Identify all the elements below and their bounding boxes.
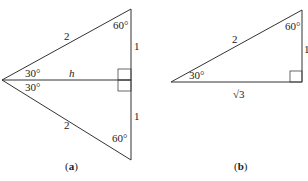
diagram-canvas: 2 2 1 1 h 30° 30° 60° 60° (a) 2 1 √3 30°… [0,0,308,181]
angle-left: 30° [189,69,204,81]
angle-bottom-right: 60° [112,132,127,144]
hyp-top-label: 2 [64,30,70,42]
height-label: h [69,67,75,79]
hypotenuse-top [2,9,131,80]
angle-top-left: 30° [25,67,40,79]
vertical-side-label: 1 [304,43,308,55]
right-angle-marker-top [118,69,131,80]
hyp-bottom-label: 2 [64,119,70,131]
angle-top-right: 60° [113,19,128,31]
figure-b: 2 1 √3 30° 60° (b) [171,10,308,173]
angle-top: 60° [285,20,300,32]
side-top-label: 1 [134,40,140,52]
caption-b: (b) [234,160,248,173]
base-label: √3 [233,88,245,100]
right-angle-marker-bottom [118,80,131,91]
figure-a: 2 2 1 1 h 30° 30° 60° 60° (a) [2,9,140,173]
right-angle-marker [290,71,302,82]
angle-bottom-left: 30° [25,81,40,93]
side-bottom-label: 1 [134,110,140,122]
caption-a: (a) [65,160,78,173]
hypotenuse-label: 2 [232,33,238,45]
